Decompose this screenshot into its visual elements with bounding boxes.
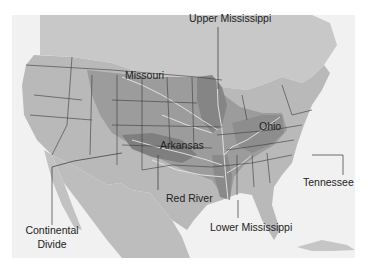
- label-lower-mississippi: Lower Mississippi: [210, 222, 292, 233]
- label-red-river: Red River: [166, 193, 213, 204]
- label-ohio: Ohio: [259, 121, 281, 132]
- label-upper-mississippi: Upper Mississippi: [189, 13, 271, 24]
- label-tennessee: Tennessee: [303, 177, 354, 188]
- basin-map: [12, 15, 355, 258]
- label-continental-divide-line2: Divide: [24, 239, 80, 250]
- label-arkansas: Arkansas: [160, 140, 204, 151]
- label-missouri: Missouri: [125, 70, 164, 81]
- label-continental-divide: Continental Divide: [24, 225, 80, 249]
- map-frame: [12, 15, 355, 258]
- cuba: [297, 240, 355, 251]
- label-continental-divide-line1: Continental: [24, 225, 80, 236]
